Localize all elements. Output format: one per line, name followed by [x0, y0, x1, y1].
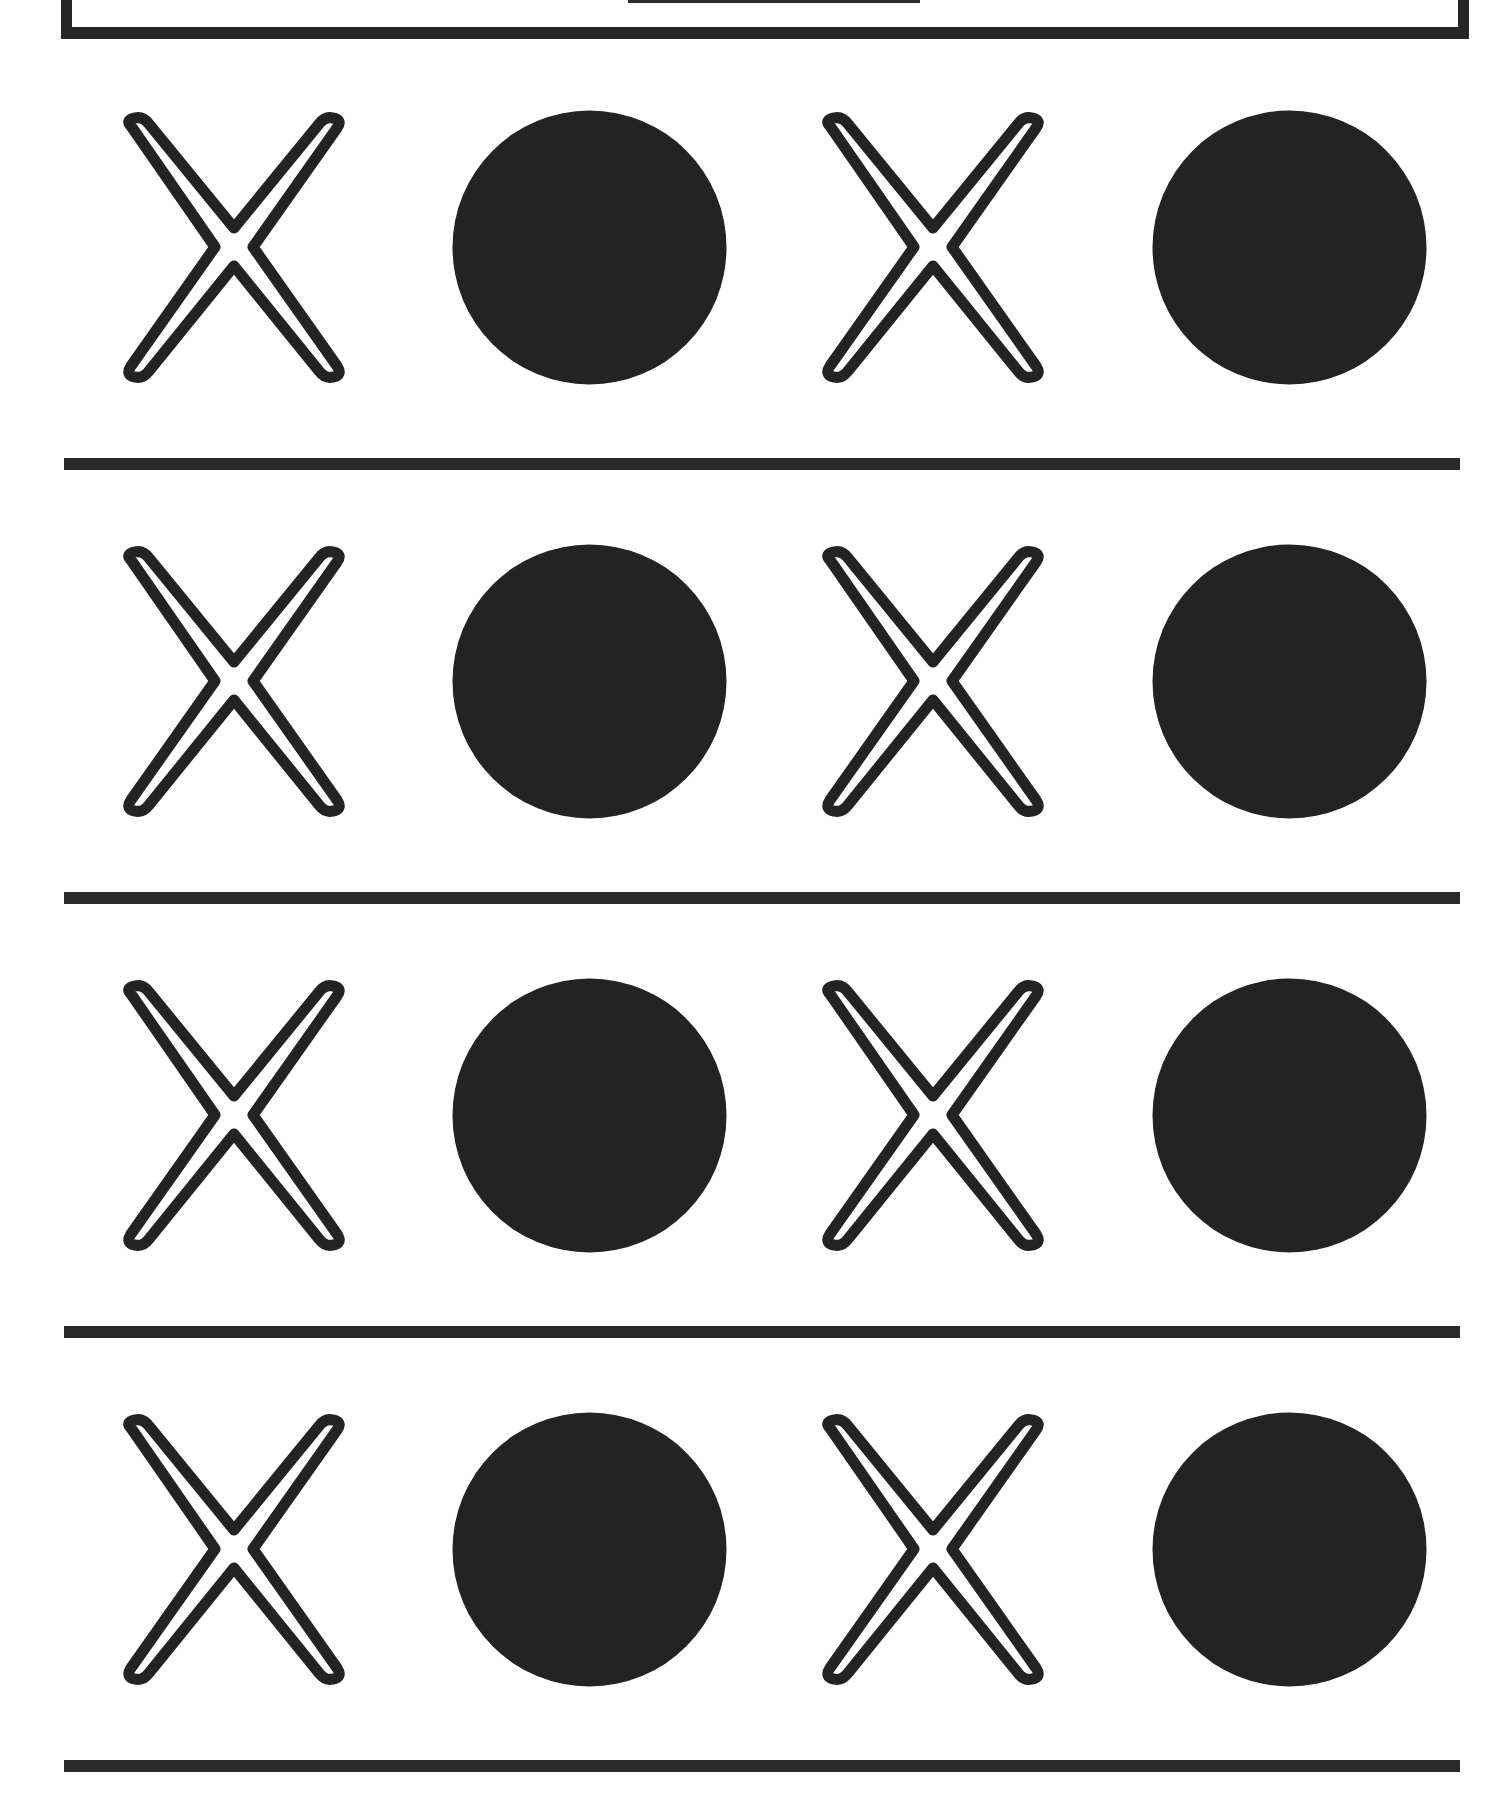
filled-circle-icon — [1151, 109, 1428, 386]
row-divider — [64, 1760, 1460, 1772]
outlined-x-icon — [113, 110, 356, 385]
filled-circle-icon — [1151, 543, 1428, 820]
filled-circle-icon — [451, 977, 728, 1254]
filled-circle-icon — [451, 109, 728, 386]
pattern-row — [0, 470, 1511, 904]
header-box — [61, 0, 1469, 39]
filled-circle-icon — [1151, 1411, 1428, 1688]
row-divider — [64, 458, 1460, 470]
outlined-x-icon — [113, 544, 356, 819]
pattern-row — [0, 1338, 1511, 1772]
header-underline — [628, 0, 920, 3]
pattern-row — [0, 904, 1511, 1338]
filled-circle-icon — [451, 1411, 728, 1688]
outlined-x-icon — [812, 544, 1055, 819]
outlined-x-icon — [812, 110, 1055, 385]
row-divider — [64, 892, 1460, 904]
filled-circle-icon — [451, 543, 728, 820]
outlined-x-icon — [812, 1412, 1055, 1687]
row-divider — [64, 1326, 1460, 1338]
outlined-x-icon — [812, 978, 1055, 1253]
pattern-row — [0, 36, 1511, 470]
outlined-x-icon — [113, 1412, 356, 1687]
outlined-x-icon — [113, 978, 356, 1253]
filled-circle-icon — [1151, 977, 1428, 1254]
